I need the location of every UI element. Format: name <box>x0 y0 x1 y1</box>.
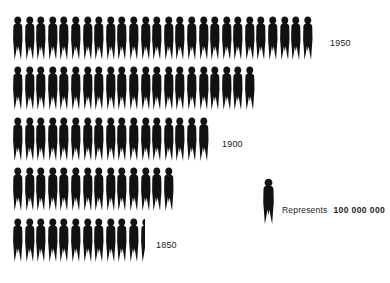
person-pictogram-icon <box>93 66 105 110</box>
person-pictogram-icon <box>221 16 233 60</box>
person-pictogram-icon <box>290 16 302 60</box>
person-pictogram-icon <box>93 167 105 211</box>
person-pictogram-half-icon <box>140 218 145 262</box>
person-pictogram-icon <box>12 16 24 60</box>
person-pictogram-icon <box>128 117 140 161</box>
person-pictogram-icon <box>128 218 140 262</box>
person-pictogram-icon <box>82 218 94 262</box>
person-pictogram-icon <box>70 16 82 60</box>
pictogram-row <box>12 218 145 262</box>
person-pictogram-icon <box>105 167 117 211</box>
row-year-label: 1950 <box>330 38 351 48</box>
person-pictogram-icon <box>93 16 105 60</box>
person-pictogram-icon <box>302 16 314 60</box>
person-pictogram-icon <box>151 66 163 110</box>
legend-prefix-label: Represents <box>282 205 327 215</box>
person-pictogram-icon <box>116 218 128 262</box>
person-pictogram-icon <box>232 66 244 110</box>
person-pictogram-icon <box>70 117 82 161</box>
person-pictogram-icon <box>163 16 175 60</box>
person-pictogram-icon <box>24 117 36 161</box>
person-pictogram-icon <box>93 117 105 161</box>
person-pictogram-icon <box>82 117 94 161</box>
person-pictogram-icon <box>221 66 233 110</box>
pictogram-row <box>12 66 255 110</box>
person-pictogram-icon <box>279 16 291 60</box>
person-pictogram-icon <box>35 117 47 161</box>
person-pictogram-icon <box>151 16 163 60</box>
pictogram-row <box>12 16 313 60</box>
person-pictogram-icon <box>47 117 59 161</box>
person-pictogram-icon <box>140 66 152 110</box>
person-pictogram-icon <box>47 218 59 262</box>
pictogram-chart: 195019001850 <box>0 0 390 283</box>
row-year-label: 1850 <box>156 240 177 250</box>
person-pictogram-icon <box>267 16 279 60</box>
pictogram-row <box>12 117 209 161</box>
person-pictogram-icon <box>186 117 198 161</box>
person-pictogram-icon <box>116 66 128 110</box>
row-year-label: 1900 <box>222 139 243 149</box>
person-pictogram-icon <box>140 167 152 211</box>
person-pictogram-icon <box>24 167 36 211</box>
person-pictogram-icon <box>105 218 117 262</box>
person-pictogram-icon <box>186 16 198 60</box>
person-pictogram-icon <box>232 16 244 60</box>
person-pictogram-icon <box>24 218 36 262</box>
person-pictogram-icon <box>198 16 210 60</box>
person-pictogram-icon <box>128 167 140 211</box>
person-pictogram-icon <box>93 218 105 262</box>
person-pictogram-icon <box>82 16 94 60</box>
person-pictogram-icon <box>140 16 152 60</box>
person-pictogram-icon <box>35 66 47 110</box>
person-pictogram-icon <box>58 167 70 211</box>
person-pictogram-icon <box>116 117 128 161</box>
person-pictogram-icon <box>58 16 70 60</box>
person-pictogram-icon <box>163 167 175 211</box>
person-pictogram-icon <box>255 16 267 60</box>
person-pictogram-icon <box>12 167 24 211</box>
person-pictogram-icon <box>209 66 221 110</box>
person-pictogram-icon <box>105 117 117 161</box>
person-pictogram-icon <box>174 16 186 60</box>
person-pictogram-icon <box>47 167 59 211</box>
person-pictogram-icon <box>24 16 36 60</box>
person-pictogram-icon <box>151 167 163 211</box>
person-pictogram-icon <box>12 117 24 161</box>
person-pictogram-icon <box>244 66 256 110</box>
person-pictogram-icon <box>70 218 82 262</box>
person-pictogram-icon <box>58 218 70 262</box>
person-pictogram-icon <box>174 117 186 161</box>
person-pictogram-icon <box>244 16 256 60</box>
person-pictogram-icon <box>35 167 47 211</box>
person-pictogram-icon <box>12 218 24 262</box>
person-pictogram-icon <box>35 16 47 60</box>
person-pictogram-icon <box>163 66 175 110</box>
person-pictogram-icon <box>128 16 140 60</box>
person-pictogram-icon <box>58 117 70 161</box>
person-pictogram-icon <box>140 117 152 161</box>
person-pictogram-icon <box>174 66 186 110</box>
person-pictogram-icon <box>198 117 210 161</box>
person-pictogram-icon <box>198 66 210 110</box>
person-pictogram-icon <box>163 117 175 161</box>
legend-person-icon <box>262 178 275 224</box>
person-pictogram-icon <box>82 66 94 110</box>
person-pictogram-icon <box>47 16 59 60</box>
person-pictogram-icon <box>128 66 140 110</box>
person-pictogram-icon <box>35 218 47 262</box>
chart-legend: Represents100 000 000 <box>262 178 385 224</box>
person-pictogram-icon <box>82 167 94 211</box>
person-pictogram-icon <box>58 66 70 110</box>
person-pictogram-icon <box>209 16 221 60</box>
person-pictogram-icon <box>70 66 82 110</box>
person-pictogram-icon <box>116 16 128 60</box>
legend-caption: Represents100 000 000 <box>282 205 385 215</box>
person-pictogram-icon <box>105 66 117 110</box>
person-pictogram-icon <box>12 66 24 110</box>
person-pictogram-icon <box>151 117 163 161</box>
legend-value-label: 100 000 000 <box>333 205 385 215</box>
person-pictogram-icon <box>105 16 117 60</box>
person-pictogram-icon <box>24 66 36 110</box>
pictogram-row <box>12 167 174 211</box>
